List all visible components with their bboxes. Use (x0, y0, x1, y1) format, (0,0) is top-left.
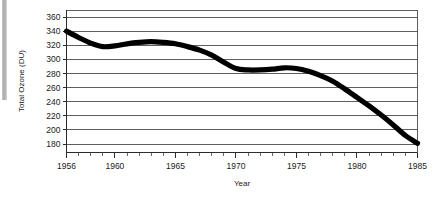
x-axis-title: Year (234, 179, 251, 188)
y-tick-label: 220 (46, 111, 60, 121)
ozone-chart: 360340320300280260240220200180 195619601… (0, 0, 439, 212)
x-tick-label: 1980 (348, 161, 367, 171)
y-axis-title: Total Ozone (DU) (17, 50, 26, 112)
y-tick-label: 180 (46, 139, 60, 149)
y-tick-label: 280 (46, 69, 60, 79)
x-tick-label: 1970 (226, 161, 245, 171)
y-tick-label: 240 (46, 97, 60, 107)
y-tick-label: 360 (46, 12, 60, 22)
x-tick-label: 1960 (105, 161, 124, 171)
y-tick-label: 320 (46, 40, 60, 50)
x-tick-label: 1985 (408, 161, 427, 171)
y-tick-label: 340 (46, 26, 60, 36)
x-tick-label: 1975 (287, 161, 306, 171)
x-tickmarks-group (67, 153, 418, 159)
y-tick-labels-group: 360340320300280260240220200180 (46, 12, 60, 149)
chart-canvas: 360340320300280260240220200180 195619601… (0, 0, 439, 212)
y-tick-label: 260 (46, 83, 60, 93)
x-tick-label: 1965 (166, 161, 185, 171)
x-tick-labels-group: 1956196019651970197519801985 (57, 161, 427, 171)
gridlines-group (67, 17, 418, 144)
x-tick-label: 1956 (57, 161, 76, 171)
y-tick-label: 300 (46, 54, 60, 64)
y-tick-label: 200 (46, 125, 60, 135)
